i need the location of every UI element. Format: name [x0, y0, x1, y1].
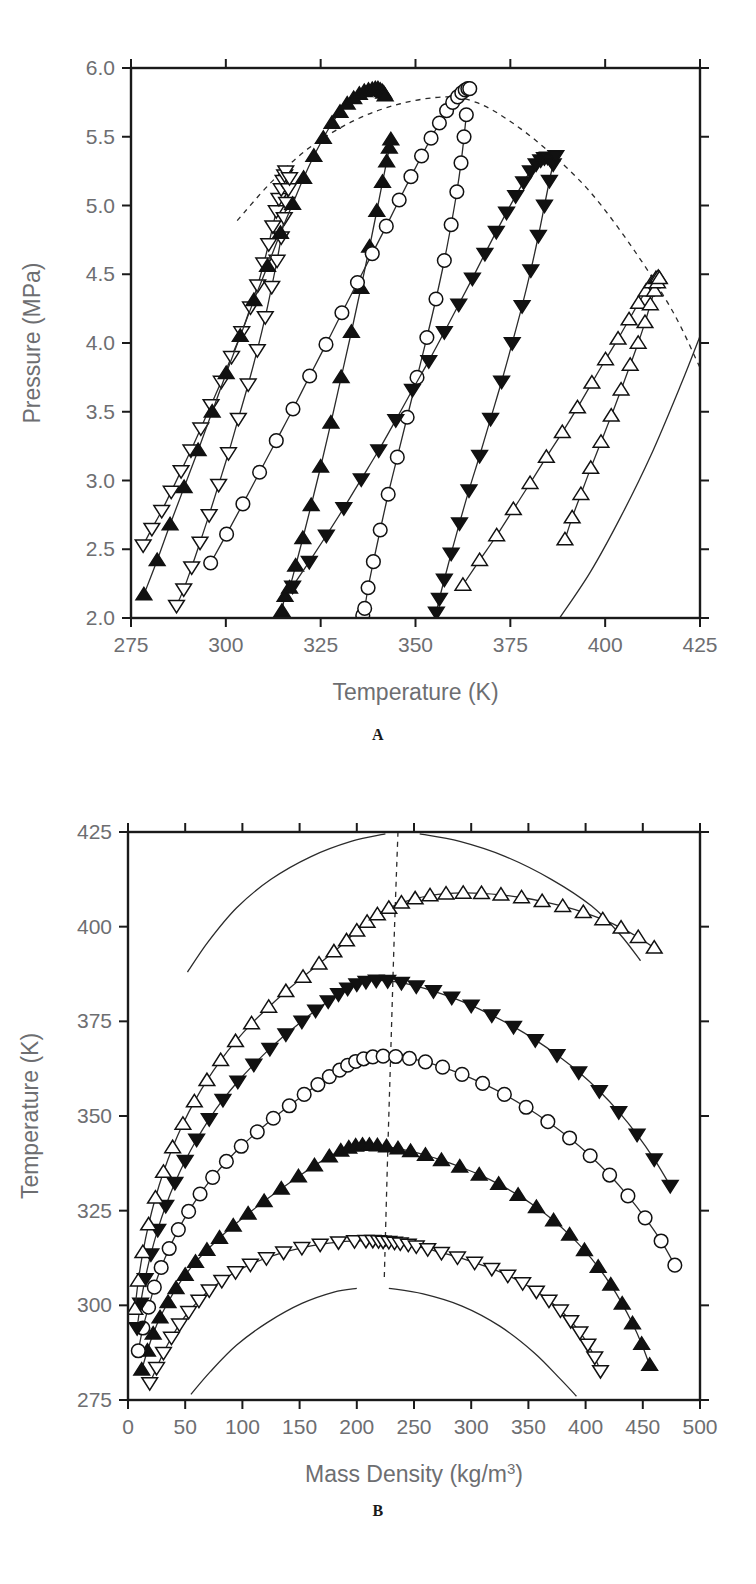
x-tick-label: 325: [303, 633, 338, 656]
plot-area: [135, 81, 700, 622]
panel-a-caption: A: [0, 726, 756, 744]
pure-component-envelope: [191, 1288, 357, 1394]
y-axis-title: Temperature (K): [17, 1033, 43, 1199]
x-tick-label: 450: [625, 1415, 660, 1438]
series-markers-mixture-2: [136, 81, 393, 599]
series-markers-dome-1: [142, 1235, 608, 1390]
x-tick-label: 375: [493, 633, 528, 656]
y-tick-label: 425: [77, 820, 112, 843]
series-fit-curve: [150, 1241, 601, 1383]
x-tick-label: 350: [511, 1415, 546, 1438]
x-tick-label: 275: [113, 633, 148, 656]
figure-sheet: 2753003253503754004252.02.53.03.54.04.55…: [0, 0, 756, 1584]
y-tick-label: 3.0: [86, 469, 115, 492]
x-tick-label: 350: [398, 633, 433, 656]
series-fit-curve: [211, 89, 470, 563]
series-markers-mixture-1: [135, 166, 293, 552]
y-tick-label: 6.0: [86, 56, 115, 79]
y-tick-label: 4.5: [86, 262, 115, 285]
x-tick-label: 100: [225, 1415, 260, 1438]
x-axis-title: Temperature (K): [332, 679, 498, 705]
x-tick-label: 50: [174, 1415, 197, 1438]
page-footer-rule: [0, 1561, 756, 1562]
pure-vapour-pressure-curve: [560, 336, 700, 618]
pure-component-envelope: [187, 834, 385, 972]
y-tick-label: 400: [77, 915, 112, 938]
y-axis-title: Pressure (MPa): [19, 262, 45, 423]
x-tick-label: 300: [454, 1415, 489, 1438]
x-tick-label: 300: [208, 633, 243, 656]
x-axis-title: Mass Density (kg/m3): [305, 1460, 523, 1487]
y-tick-label: 300: [77, 1293, 112, 1316]
pressure-temperature-chart: 2753003253503754004252.02.53.03.54.04.55…: [0, 0, 756, 720]
y-tick-label: 2.5: [86, 537, 115, 560]
y-tick-label: 325: [77, 1199, 112, 1222]
y-tick-label: 4.0: [86, 331, 115, 354]
y-tick-label: 2.0: [86, 606, 115, 629]
y-tick-label: 3.5: [86, 400, 115, 423]
x-tick-label: 500: [682, 1415, 717, 1438]
y-tick-label: 5.5: [86, 125, 115, 148]
series-markers-mixture-3b: [356, 108, 473, 622]
panel-b: 0501001502002503003504004505002753003253…: [0, 760, 756, 1584]
x-tick-label: 425: [682, 633, 717, 656]
y-tick-label: 375: [77, 1009, 112, 1032]
x-tick-label: 250: [396, 1415, 431, 1438]
x-tick-label: 400: [588, 633, 623, 656]
x-tick-label: 400: [568, 1415, 603, 1438]
y-tick-label: 5.0: [86, 194, 115, 217]
x-tick-label: 150: [282, 1415, 317, 1438]
plot-area: [127, 832, 682, 1396]
panel-b-caption: B: [0, 1502, 756, 1520]
panel-a: 2753003253503754004252.02.53.03.54.04.55…: [0, 0, 756, 760]
temperature-density-chart: 0501001502002503003504004505002753003253…: [0, 760, 756, 1500]
x-tick-label: 0: [122, 1415, 134, 1438]
y-tick-label: 350: [77, 1104, 112, 1127]
x-tick-label: 200: [339, 1415, 374, 1438]
y-tick-label: 275: [77, 1388, 112, 1411]
